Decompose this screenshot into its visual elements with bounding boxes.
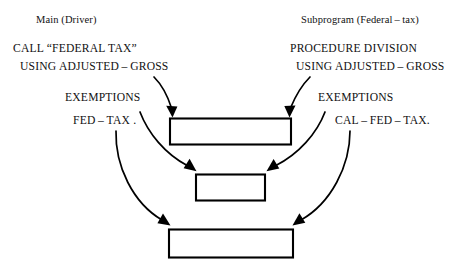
connector-left-to-adjusted-gross [154,77,177,118]
call-parameter-mapping-diagram: Main (Driver) Subprogram (Federal – tax)… [0,0,461,270]
connector-left-to-fed-tax [116,131,171,226]
adjusted-gross-box [170,119,291,145]
fed-tax-box [169,230,293,258]
exemptions-box [196,175,265,201]
connector-right-to-adjusted-gross [284,77,310,118]
connector-right-to-fed-tax [293,131,351,226]
connector-and-box-layer [0,0,461,270]
